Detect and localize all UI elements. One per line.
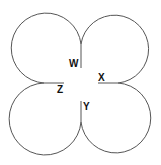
loop-bottom-right	[81, 83, 151, 153]
loop-top-left	[11, 13, 81, 83]
four-loop-diagram: W X Z Y	[0, 0, 161, 165]
label-z: Z	[57, 84, 63, 95]
label-y: Y	[83, 101, 90, 112]
label-w: W	[69, 58, 79, 69]
loop-bottom-left	[9, 83, 81, 155]
loop-top-right	[81, 15, 149, 83]
label-x: X	[98, 72, 105, 83]
